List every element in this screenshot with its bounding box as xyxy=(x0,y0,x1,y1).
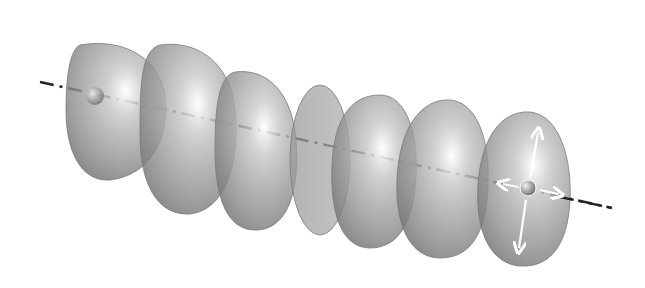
origin-marker xyxy=(86,87,104,105)
wave-slices-diagram xyxy=(0,0,645,288)
diagram-canvas xyxy=(0,0,645,288)
wave-slice-3 xyxy=(215,72,297,231)
end-marker xyxy=(520,180,536,196)
